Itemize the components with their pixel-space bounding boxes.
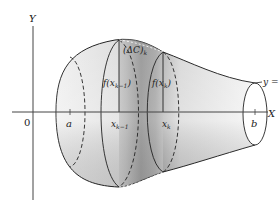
tick-label-a: a	[66, 118, 72, 129]
label-f-xk: f(xk)	[151, 78, 172, 89]
curve-label: y = f(x)	[262, 77, 280, 87]
origin-label: 0	[24, 117, 30, 128]
x-axis-label: X	[267, 108, 276, 119]
tick-label-b: b	[251, 118, 257, 129]
y-axis-label: Y	[29, 13, 37, 24]
solid-of-revolution-diagram: Y X 0 a b xk−1 xk f(xk−1) f(xk) (ΔC)k y …	[0, 0, 280, 208]
